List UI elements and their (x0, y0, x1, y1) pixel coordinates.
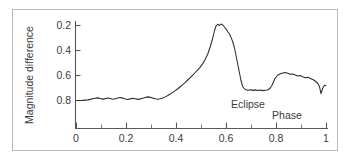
light-curve-line (78, 24, 326, 101)
y-tick-label-1: 0.4 (56, 44, 71, 56)
y-axis-title: Magnitude difference (23, 26, 35, 124)
eclipse-annotation: Eclipse (231, 98, 265, 110)
x-tick-label-0: 0 (73, 132, 79, 144)
light-curve-chart: 0.2 0.4 0.6 0.8 Magnitude difference (0, 0, 351, 162)
x-axis-group: 0 0.2 0.4 0.6 0.8 1 Phase (73, 109, 329, 144)
y-tick-label-0: 0.2 (56, 19, 71, 31)
x-tick-label-5: 1 (323, 132, 329, 144)
y-tick-label-2: 0.6 (56, 69, 71, 81)
x-tick-label-1: 0.2 (119, 132, 134, 144)
annotations-group: Eclipse (231, 98, 265, 110)
x-tick-label-4: 0.8 (269, 132, 284, 144)
x-axis-title: Phase (272, 109, 302, 121)
figure-root: 0.2 0.4 0.6 0.8 Magnitude difference (0, 0, 351, 162)
x-tick-label-3: 0.6 (219, 132, 234, 144)
x-axis-minor-ticks (102, 125, 302, 129)
y-axis-group: 0.2 0.4 0.6 0.8 Magnitude difference (23, 19, 81, 129)
x-tick-label-2: 0.4 (169, 132, 184, 144)
y-axis-ticks (76, 26, 81, 101)
y-tick-label-3: 0.8 (56, 94, 71, 106)
